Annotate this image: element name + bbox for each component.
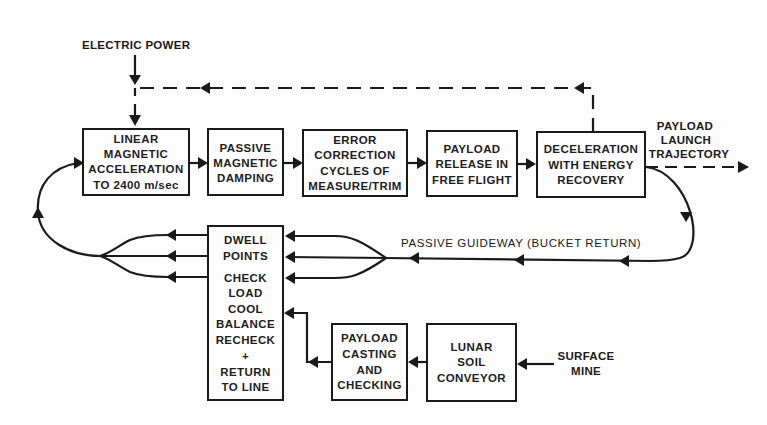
mass-driver-flow-diagram: ELECTRIC POWER LINEAR MAGNETIC ACCELERAT… — [0, 0, 767, 425]
svg-text:CHECK: CHECK — [224, 272, 267, 284]
svg-text:MEASURE/TRIM: MEASURE/TRIM — [308, 180, 402, 192]
right-return-curve — [646, 167, 693, 261]
svg-text:TRAJECTORY: TRAJECTORY — [649, 148, 729, 160]
svg-text:TO LINE: TO LINE — [222, 381, 270, 393]
passive-guideway-label: PASSIVE GUIDEWAY (BUCKET RETURN) — [401, 237, 641, 249]
flow-arrow — [408, 356, 427, 368]
energy-recovery-return-line — [138, 82, 593, 132]
passive-damping-box: PASSIVE MAGNETIC DAMPING — [208, 129, 283, 195]
svg-text:PAYLOAD: PAYLOAD — [657, 120, 713, 132]
svg-text:MAGNETIC: MAGNETIC — [213, 157, 278, 169]
svg-text:PAYLOAD: PAYLOAD — [443, 143, 500, 155]
flow-arrow — [283, 157, 303, 169]
svg-text:RECHECK: RECHECK — [216, 334, 276, 346]
svg-text:RECOVERY: RECOVERY — [557, 174, 624, 186]
svg-text:RELEASE IN: RELEASE IN — [435, 158, 508, 170]
flow-arrow — [189, 157, 208, 169]
passive-guideway-line — [384, 252, 652, 267]
svg-text:ERROR: ERROR — [333, 134, 377, 146]
svg-text:TO 2400 m/sec: TO 2400 m/sec — [93, 179, 179, 191]
svg-text:ACCELERATION: ACCELERATION — [88, 163, 183, 175]
svg-text:LAUNCH: LAUNCH — [661, 134, 711, 146]
payload-casting-box: PAYLOAD CASTING AND CHECKING — [332, 324, 407, 400]
flow-arrow — [407, 157, 427, 169]
svg-text:COOL: COOL — [228, 303, 263, 315]
payload-launch-trajectory-label: PAYLOAD LAUNCH TRAJECTORY — [649, 120, 729, 160]
dwell-points-box: DWELL POINTS CHECK LOAD COOL BALANCE REC… — [208, 226, 283, 400]
deceleration-box: DECELERATION WITH ENERGY RECOVERY — [537, 132, 645, 197]
dwell-fan-in-right — [285, 230, 386, 284]
svg-text:MAGNETIC: MAGNETIC — [104, 148, 169, 160]
svg-text:DECELERATION: DECELERATION — [544, 143, 639, 155]
svg-text:POINTS: POINTS — [223, 250, 268, 262]
svg-text:SOIL: SOIL — [457, 356, 485, 368]
dwell-fan-out-left — [100, 229, 208, 283]
surface-mine-label: SURFACE MINE — [557, 350, 614, 377]
svg-text:LUNAR: LUNAR — [450, 341, 493, 353]
surface-mine-arrow — [517, 358, 554, 370]
electric-power-label: ELECTRIC POWER — [82, 39, 191, 51]
svg-text:LINEAR: LINEAR — [113, 133, 158, 145]
flow-arrow — [517, 158, 536, 170]
svg-text:CHECKING: CHECKING — [337, 379, 402, 391]
svg-text:CORRECTION: CORRECTION — [314, 149, 395, 161]
linear-acceleration-box: LINEAR MAGNETIC ACCELERATION TO 2400 m/s… — [83, 129, 189, 195]
svg-text:+: + — [242, 350, 249, 362]
payload-release-box: PAYLOAD RELEASE IN FREE FLIGHT — [427, 131, 517, 196]
svg-text:FREE FLIGHT: FREE FLIGHT — [432, 174, 512, 186]
svg-text:CONVEYOR: CONVEYOR — [437, 372, 506, 384]
svg-text:CYCLES OF: CYCLES OF — [320, 165, 389, 177]
svg-text:PASSIVE: PASSIVE — [220, 142, 272, 154]
lunar-soil-conveyor-box: LUNAR SOIL CONVEYOR — [427, 324, 516, 401]
svg-text:PAYLOAD: PAYLOAD — [341, 332, 398, 344]
svg-text:LOAD: LOAD — [228, 287, 262, 299]
svg-text:BALANCE: BALANCE — [216, 318, 275, 330]
electric-power-arrow — [129, 55, 141, 126]
svg-text:CASTING: CASTING — [342, 348, 397, 360]
svg-text:WITH ENERGY: WITH ENERGY — [548, 159, 634, 171]
svg-text:SURFACE: SURFACE — [557, 350, 614, 362]
casting-to-dwell-arrow — [284, 307, 332, 368]
error-correction-box: ERROR CORRECTION CYCLES OF MEASURE/TRIM — [303, 130, 407, 196]
svg-text:DWELL: DWELL — [224, 234, 267, 246]
svg-text:MINE: MINE — [571, 365, 601, 377]
svg-text:DAMPING: DAMPING — [217, 172, 274, 184]
svg-text:RETURN: RETURN — [220, 366, 270, 378]
svg-text:AND: AND — [356, 364, 382, 376]
